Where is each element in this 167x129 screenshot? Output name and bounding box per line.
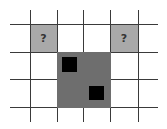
grid-line-vertical	[138, 10, 139, 122]
black-square	[89, 86, 104, 100]
grid-diagram: ? ?	[0, 0, 167, 129]
question-mark-label: ?	[40, 32, 46, 45]
unknown-cell-right: ?	[110, 24, 138, 52]
black-square	[62, 57, 77, 72]
unknown-cell-left: ?	[30, 24, 57, 52]
question-mark-label: ?	[121, 32, 127, 45]
grid-line-vertical	[30, 10, 31, 122]
grid-line-horizontal	[10, 24, 158, 25]
